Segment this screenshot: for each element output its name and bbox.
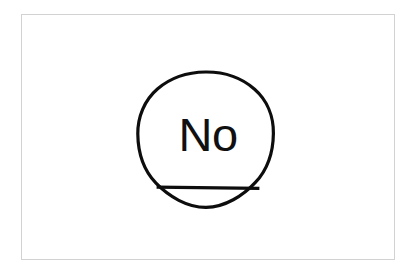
image-canvas: No bbox=[0, 0, 416, 274]
chord-line bbox=[157, 187, 260, 188]
diagram-figure bbox=[0, 0, 416, 274]
